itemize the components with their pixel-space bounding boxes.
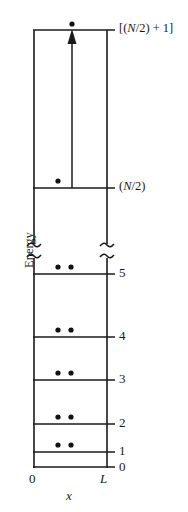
electron-dot bbox=[55, 442, 60, 447]
electron-dot bbox=[68, 327, 73, 332]
x-axis-tick-left: 0 bbox=[29, 472, 36, 485]
electron-dot bbox=[69, 21, 74, 26]
electron-dot bbox=[68, 370, 73, 375]
level-label-3: 3 bbox=[119, 372, 126, 385]
level-label-4: 4 bbox=[119, 329, 126, 342]
electron-dot bbox=[68, 264, 73, 269]
x-axis-label: x bbox=[66, 489, 72, 502]
energy-level-figure: Energy [(N/2) + 1] (N/2) 5 4 3 2 1 0 0 L… bbox=[0, 0, 188, 512]
electron-dot bbox=[55, 327, 60, 332]
box-walls bbox=[34, 30, 107, 468]
excitation-arrow-head-icon bbox=[68, 29, 77, 44]
electron-dot bbox=[55, 178, 60, 183]
electron-dot bbox=[55, 370, 60, 375]
y-axis-label: Energy bbox=[22, 232, 37, 268]
level-label-5: 5 bbox=[119, 266, 126, 279]
electron-dot bbox=[68, 414, 73, 419]
level-label-1: 1 bbox=[119, 444, 126, 457]
axis-break-marks bbox=[27, 243, 114, 258]
excitation-arrow bbox=[68, 29, 77, 188]
energy-levels bbox=[33, 30, 115, 467]
electron-dot bbox=[68, 442, 73, 447]
level-label-n2plus1: [(N/2) + 1] bbox=[119, 22, 173, 35]
x-axis-tick-right: L bbox=[100, 472, 107, 485]
level-label-2: 2 bbox=[119, 416, 126, 429]
level-label-n2: (N/2) bbox=[119, 180, 145, 193]
electron-dot bbox=[55, 264, 60, 269]
electron-dot bbox=[55, 414, 60, 419]
level-label-0: 0 bbox=[119, 460, 126, 473]
axis-break-right-lower-icon bbox=[100, 254, 114, 258]
